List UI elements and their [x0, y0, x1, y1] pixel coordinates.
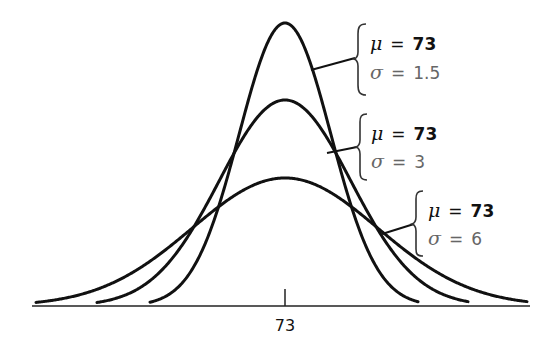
sigma-label: σ=1.5: [370, 61, 440, 83]
brace-icon: [356, 114, 367, 180]
normal-distribution-chart: 73 μ=73 σ=1.5 μ=73 σ=3 μ=73 σ=6: [0, 0, 554, 346]
mu-label: μ=73: [428, 199, 494, 221]
brace-icon: [354, 24, 366, 95]
brace-icon: [412, 191, 423, 256]
leader-line: [311, 58, 355, 70]
sigma-label: σ=3: [371, 150, 425, 172]
annotation-sigma-1-5: μ=73 σ=1.5: [311, 24, 440, 95]
curve-sigma-3: [97, 100, 468, 302]
mu-label: μ=73: [371, 122, 437, 144]
x-tick-label-73: 73: [275, 316, 295, 335]
mu-label: μ=73: [370, 32, 436, 54]
leader-line: [382, 224, 414, 234]
sigma-label: σ=6: [428, 227, 482, 249]
